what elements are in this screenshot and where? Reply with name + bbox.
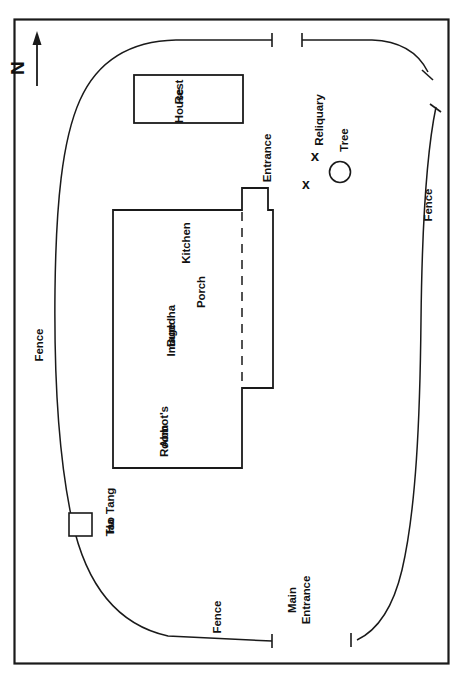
- label-fence-west: Fence: [33, 329, 45, 362]
- label-fence-south: Fence: [211, 601, 223, 634]
- fence-segment-east: [357, 107, 436, 640]
- fence-segment-north-east: [302, 40, 428, 72]
- label-buddha-line2: Image: [165, 324, 177, 357]
- label-main-entrance-line2: Entrance: [300, 576, 312, 624]
- building-tao-tang-ha: [69, 513, 92, 536]
- label-kitchen: Kitchen: [180, 222, 192, 264]
- label-tree: Tree: [338, 128, 350, 151]
- label-fence-east: Fence: [422, 189, 434, 222]
- reliquary-x-mark-2: x: [302, 176, 310, 192]
- label-entrance: Entrance: [261, 134, 273, 182]
- reliquary-x-mark-1: x: [311, 147, 320, 164]
- north-arrow-icon: [33, 31, 42, 45]
- building-main-hall: [113, 188, 273, 468]
- label-abbot-line2: Room: [158, 425, 170, 457]
- label-tao-tang-line2: Ha: [104, 518, 116, 533]
- label-rest-house-line2: House: [173, 89, 185, 124]
- building-rest-house: [134, 75, 243, 123]
- label-porch: Porch: [195, 276, 207, 308]
- site-plan-figure: x x N Rest House Entrance Reliquary Tree…: [0, 0, 463, 682]
- tree-marker-icon: [330, 162, 351, 183]
- site-plan-canvas: x x N Rest House Entrance Reliquary Tree…: [0, 0, 463, 682]
- north-label: N: [7, 61, 28, 75]
- label-main-entrance-line1: Main: [286, 587, 298, 613]
- label-reliquary: Reliquary: [313, 94, 325, 146]
